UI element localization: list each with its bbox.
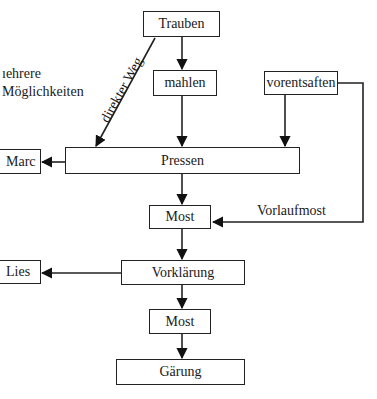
node-label: Most <box>166 314 195 330</box>
node-trauben: Trauben <box>143 11 220 37</box>
edge-label-vorlaufmost: Vorlaufmost <box>257 203 326 219</box>
node-most-2: Most <box>149 309 211 334</box>
node-label: Marc <box>6 154 36 170</box>
node-gaerung: Gärung <box>116 359 245 385</box>
node-label: Most <box>166 209 195 225</box>
side-note-line-2: Möglichkeiten <box>2 84 84 100</box>
node-marc: Marc <box>0 149 41 174</box>
node-label: Gärung <box>160 364 202 380</box>
side-note-line-1: ıehrere <box>2 66 41 82</box>
node-mahlen: mahlen <box>153 70 217 96</box>
node-lies: Lies <box>0 260 41 284</box>
node-vorentsaften: vorentsaften <box>264 71 338 95</box>
node-pressen: Pressen <box>65 147 300 174</box>
connector-lines <box>0 0 377 399</box>
node-label: Pressen <box>161 153 204 169</box>
node-most-1: Most <box>149 205 211 229</box>
node-label: Vorklärung <box>152 265 215 281</box>
node-label: Trauben <box>158 16 204 32</box>
node-label: vorentsaften <box>266 75 335 91</box>
node-label: Lies <box>6 264 30 280</box>
node-vorklaerung: Vorklärung <box>121 260 245 285</box>
node-label: mahlen <box>164 75 205 91</box>
